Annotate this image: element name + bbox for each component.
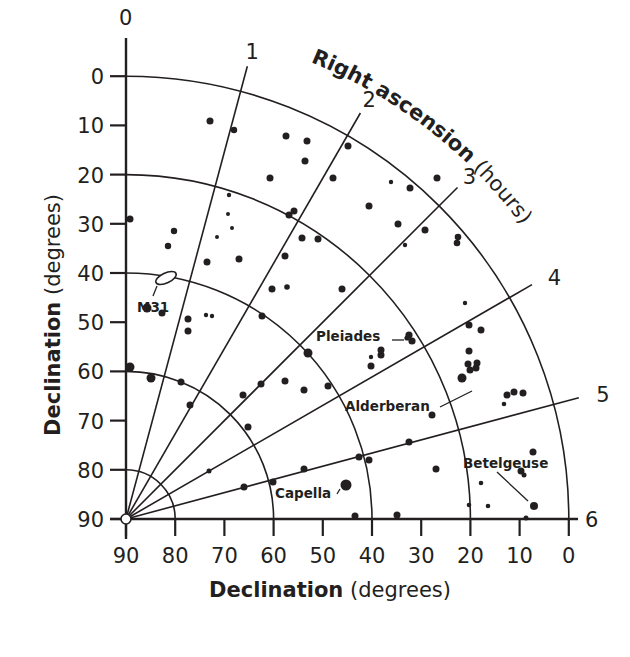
star-dot: [422, 227, 429, 234]
star-dot: [369, 355, 373, 359]
x-tick-label-30: 30: [408, 544, 435, 568]
alderberan-label: Alderberan: [345, 398, 430, 414]
star-dot: [259, 313, 266, 320]
star-dot: [207, 469, 212, 474]
m31-label: M31: [137, 299, 169, 315]
y-tick-label-20: 20: [77, 164, 104, 188]
star-dot: [524, 516, 529, 521]
star-dot: [204, 259, 211, 266]
star-dot: [455, 234, 462, 241]
star-dot: [463, 301, 467, 305]
pleiades-star: [404, 335, 409, 340]
ra-hour-label-4: 4: [548, 266, 561, 290]
ra-line-3: [126, 188, 457, 519]
star-dot: [204, 313, 208, 317]
star-dot: [395, 221, 402, 228]
star-dot: [466, 322, 473, 329]
pleiades-group: Pleiades: [316, 328, 416, 345]
star-dot: [301, 466, 308, 473]
x-tick-label-0: 0: [562, 544, 575, 568]
x-axis-title: Declination (degrees): [209, 578, 451, 602]
alderberan-leader-line: [440, 391, 472, 407]
ra-hour-label-5: 5: [596, 383, 609, 407]
star-dot: [504, 392, 511, 399]
star-dot: [299, 235, 306, 242]
star-dot: [356, 454, 363, 461]
star-dot: [126, 363, 135, 372]
star-dot: [304, 138, 311, 145]
star-dot: [366, 203, 373, 210]
star-chart: 1234506 90908080707060605050404030302020…: [0, 0, 630, 657]
x-tick-label-60: 60: [260, 544, 287, 568]
star-dot: [207, 118, 214, 125]
star-dot: [511, 389, 518, 396]
star-dot: [282, 253, 289, 260]
star-dot: [366, 457, 373, 464]
star-dot: [171, 228, 177, 234]
star-dot: [530, 502, 538, 510]
star-dot: [269, 286, 276, 293]
x-tick-label-40: 40: [359, 544, 386, 568]
star-dot: [339, 286, 346, 293]
capella-group: Capella: [275, 485, 340, 501]
ra-hour-label-1: 1: [245, 40, 258, 64]
star-dot: [231, 127, 237, 133]
x-tick-label-20: 20: [457, 544, 484, 568]
star-dot: [185, 328, 192, 335]
m31-ellipse-icon: [154, 269, 178, 287]
star-dot: [283, 133, 290, 140]
y-tick-label-80: 80: [77, 459, 104, 483]
y-tick-label-0: 0: [91, 65, 104, 89]
star-dot: [230, 226, 234, 230]
ra-hour-label-0: 0: [119, 6, 132, 30]
star-dot: [302, 158, 309, 165]
star-dot: [187, 402, 194, 409]
y-axis-title: Declination (degrees): [41, 194, 65, 436]
star-dot: [304, 349, 313, 358]
star-dot: [147, 374, 156, 383]
star-dot: [478, 327, 485, 334]
star-dot: [185, 316, 192, 323]
y-tick-label-90: 90: [77, 508, 104, 532]
y-tick-label-30: 30: [77, 213, 104, 237]
star-dot: [474, 360, 481, 367]
star-dot: [284, 284, 290, 290]
y-tick-label-40: 40: [77, 262, 104, 286]
m31-leader-line: [153, 286, 157, 296]
star-dot: [178, 379, 185, 386]
star-dot: [226, 212, 230, 216]
star-dot: [467, 367, 474, 374]
y-tick-label-50: 50: [77, 311, 104, 335]
betelgeuse-group: Betelgeuse: [463, 455, 548, 501]
star-dot: [165, 243, 171, 249]
star-dot: [403, 243, 407, 247]
star-dot: [522, 473, 527, 478]
star-dot: [210, 314, 214, 318]
star-dot: [345, 143, 352, 150]
star-dot: [368, 363, 375, 370]
y-tick-label-60: 60: [77, 360, 104, 384]
star-dot: [378, 347, 385, 354]
x-tick-label-70: 70: [211, 544, 238, 568]
star-dot: [330, 175, 337, 182]
star-dot: [406, 439, 413, 446]
ra-line-1: [126, 66, 247, 519]
star-dot: [389, 180, 393, 184]
star-dot: [236, 256, 243, 263]
star-dot: [267, 175, 274, 182]
star-dot: [433, 466, 440, 473]
star-dot: [454, 240, 461, 247]
star-dot: [286, 212, 293, 219]
star-dot: [258, 381, 265, 388]
star-dot: [486, 504, 491, 509]
star-dot: [301, 387, 308, 394]
star-dot: [227, 193, 231, 197]
star-dot: [215, 235, 219, 239]
x-tick-label-90: 90: [113, 544, 140, 568]
x-tick-label-80: 80: [162, 544, 189, 568]
star-dot: [502, 402, 507, 407]
y-tick-label-10: 10: [77, 114, 104, 138]
ra-hour-label-6: 6: [585, 508, 598, 532]
right-ascension-title: Right ascension (hours): [309, 45, 537, 229]
star-dot: [282, 378, 289, 385]
